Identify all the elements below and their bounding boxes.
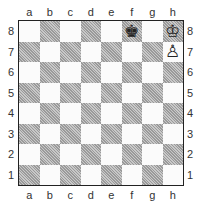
square-c4[interactable] xyxy=(60,103,81,124)
square-a6[interactable] xyxy=(19,62,40,83)
rank-label-1: 1 xyxy=(5,165,17,186)
square-e6[interactable] xyxy=(101,62,122,83)
square-a2[interactable] xyxy=(19,144,40,165)
square-g1[interactable] xyxy=(142,165,163,186)
rank-label-4: 4 xyxy=(184,103,196,124)
rank-label-1: 1 xyxy=(184,165,196,186)
file-label-d: d xyxy=(81,6,102,18)
file-label-d: d xyxy=(81,189,102,201)
file-label-f: f xyxy=(122,6,143,18)
square-g8[interactable] xyxy=(142,21,163,42)
square-b3[interactable] xyxy=(40,124,61,145)
square-h5[interactable] xyxy=(163,83,184,104)
square-e8[interactable] xyxy=(101,21,122,42)
square-d7[interactable] xyxy=(81,42,102,63)
square-e5[interactable] xyxy=(101,83,122,104)
chess-board: ♚♔♙ xyxy=(18,20,184,186)
file-label-a: a xyxy=(19,6,40,18)
square-c6[interactable] xyxy=(60,62,81,83)
square-e7[interactable] xyxy=(101,42,122,63)
square-b4[interactable] xyxy=(40,103,61,124)
square-b1[interactable] xyxy=(40,165,61,186)
rank-label-8: 8 xyxy=(184,21,196,42)
square-c1[interactable] xyxy=(60,165,81,186)
square-f3[interactable] xyxy=(122,124,143,145)
square-b7[interactable] xyxy=(40,42,61,63)
file-label-e: e xyxy=(101,189,122,201)
black-king-icon[interactable]: ♚ xyxy=(124,23,139,40)
rank-label-2: 2 xyxy=(184,144,196,165)
rank-label-8: 8 xyxy=(5,21,17,42)
square-h8[interactable]: ♔ xyxy=(163,21,184,42)
square-a8[interactable] xyxy=(19,21,40,42)
square-g5[interactable] xyxy=(142,83,163,104)
file-label-g: g xyxy=(142,189,163,201)
square-d5[interactable] xyxy=(81,83,102,104)
rank-label-6: 6 xyxy=(184,62,196,83)
square-b5[interactable] xyxy=(40,83,61,104)
square-a5[interactable] xyxy=(19,83,40,104)
square-h7[interactable]: ♙ xyxy=(163,42,184,63)
square-e3[interactable] xyxy=(101,124,122,145)
file-label-b: b xyxy=(40,6,61,18)
rank-label-4: 4 xyxy=(5,103,17,124)
square-g6[interactable] xyxy=(142,62,163,83)
square-d2[interactable] xyxy=(81,144,102,165)
file-label-c: c xyxy=(60,6,81,18)
file-label-b: b xyxy=(40,189,61,201)
rank-label-2: 2 xyxy=(5,144,17,165)
square-f4[interactable] xyxy=(122,103,143,124)
square-c2[interactable] xyxy=(60,144,81,165)
square-c7[interactable] xyxy=(60,42,81,63)
square-h2[interactable] xyxy=(163,144,184,165)
file-label-f: f xyxy=(122,189,143,201)
square-g3[interactable] xyxy=(142,124,163,145)
square-h4[interactable] xyxy=(163,103,184,124)
square-b8[interactable] xyxy=(40,21,61,42)
file-label-g: g xyxy=(142,6,163,18)
square-h6[interactable] xyxy=(163,62,184,83)
square-a7[interactable] xyxy=(19,42,40,63)
square-d3[interactable] xyxy=(81,124,102,145)
square-b6[interactable] xyxy=(40,62,61,83)
rank-label-3: 3 xyxy=(184,124,196,145)
file-label-c: c xyxy=(60,189,81,201)
square-f6[interactable] xyxy=(122,62,143,83)
square-h3[interactable] xyxy=(163,124,184,145)
file-label-h: h xyxy=(163,189,184,201)
file-label-e: e xyxy=(101,6,122,18)
white-pawn-icon[interactable]: ♙ xyxy=(165,43,180,60)
square-h1[interactable] xyxy=(163,165,184,186)
rank-label-7: 7 xyxy=(5,42,17,63)
square-f1[interactable] xyxy=(122,165,143,186)
square-d6[interactable] xyxy=(81,62,102,83)
rank-label-6: 6 xyxy=(5,62,17,83)
rank-label-7: 7 xyxy=(184,42,196,63)
square-c3[interactable] xyxy=(60,124,81,145)
square-d1[interactable] xyxy=(81,165,102,186)
square-f2[interactable] xyxy=(122,144,143,165)
square-f7[interactable] xyxy=(122,42,143,63)
square-e4[interactable] xyxy=(101,103,122,124)
square-f8[interactable]: ♚ xyxy=(122,21,143,42)
square-a3[interactable] xyxy=(19,124,40,145)
square-g4[interactable] xyxy=(142,103,163,124)
square-a1[interactable] xyxy=(19,165,40,186)
square-e2[interactable] xyxy=(101,144,122,165)
rank-label-5: 5 xyxy=(184,83,196,104)
square-b2[interactable] xyxy=(40,144,61,165)
square-f5[interactable] xyxy=(122,83,143,104)
square-d8[interactable] xyxy=(81,21,102,42)
square-e1[interactable] xyxy=(101,165,122,186)
square-c5[interactable] xyxy=(60,83,81,104)
white-king-icon[interactable]: ♔ xyxy=(165,23,180,40)
square-g2[interactable] xyxy=(142,144,163,165)
square-a4[interactable] xyxy=(19,103,40,124)
square-d4[interactable] xyxy=(81,103,102,124)
rank-label-5: 5 xyxy=(5,83,17,104)
rank-label-3: 3 xyxy=(5,124,17,145)
square-g7[interactable] xyxy=(142,42,163,63)
file-label-h: h xyxy=(163,6,184,18)
file-label-a: a xyxy=(19,189,40,201)
square-c8[interactable] xyxy=(60,21,81,42)
